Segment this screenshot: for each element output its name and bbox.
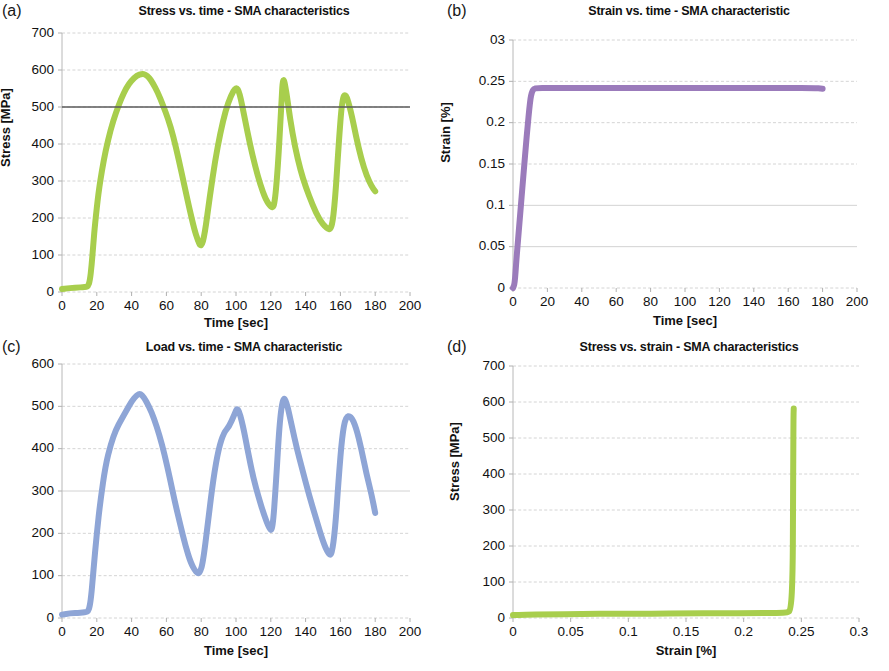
- x-tick-label: 60: [609, 294, 624, 309]
- panel-c: (c) Load vs. time - SMA characteristic 0…: [0, 336, 444, 671]
- y-tick-label: 0.05: [479, 238, 505, 253]
- y-tick-label: 400: [482, 466, 505, 481]
- x-tick-label: 200: [399, 624, 422, 639]
- x-tick-label: 80: [194, 298, 209, 313]
- x-tick-label: 120: [260, 624, 283, 639]
- x-tick-label: 80: [194, 624, 209, 639]
- x-tick-label: 0.2: [734, 624, 753, 639]
- y-tick-label: 600: [482, 394, 505, 409]
- data-curve-a: [62, 74, 375, 289]
- panel-a: (a) Stress vs. time - SMA characteristic…: [0, 0, 444, 335]
- panel-c-xlabel: Time [sec]: [62, 643, 410, 658]
- panel-b-svg: 00.050.10.150.20.25030204060801001201401…: [445, 0, 889, 335]
- x-tick-label: 0.1: [619, 624, 638, 639]
- x-tick-label: 160: [329, 624, 352, 639]
- y-tick-label: 100: [31, 247, 54, 262]
- x-tick-label: 100: [225, 298, 248, 313]
- figure-root: (a) Stress vs. time - SMA characteristic…: [0, 0, 889, 671]
- panel-d: (d) Stress vs. strain - SMA characterist…: [445, 336, 889, 671]
- x-tick-label: 60: [159, 624, 174, 639]
- x-tick-label: 120: [260, 298, 283, 313]
- panel-a-ylabel: Stress [MPa]: [0, 88, 13, 167]
- y-tick-label: 600: [31, 356, 54, 371]
- panel-a-plot: 0100200300400500600700020406080100120140…: [0, 0, 444, 335]
- panel-b-xlabel: Time [sec]: [513, 313, 857, 328]
- x-tick-label: 0.05: [558, 624, 584, 639]
- y-tick-label: 100: [482, 574, 505, 589]
- y-tick-label: 700: [31, 25, 54, 40]
- y-tick-label: 300: [482, 502, 505, 517]
- x-tick-label: 200: [399, 298, 422, 313]
- x-tick-label: 140: [294, 298, 317, 313]
- x-tick-label: 0: [509, 294, 517, 309]
- y-tick-label: 200: [482, 538, 505, 553]
- y-tick-label: 03: [490, 32, 505, 47]
- x-tick-label: 20: [89, 298, 104, 313]
- x-tick-label: 20: [540, 294, 555, 309]
- y-tick-label: 0: [497, 610, 505, 625]
- x-tick-label: 100: [674, 294, 697, 309]
- panel-d-svg: 010020030040050060070000.050.10.150.20.2…: [445, 336, 889, 671]
- panel-a-svg: 0100200300400500600700020406080100120140…: [0, 0, 444, 335]
- x-tick-label: 140: [743, 294, 766, 309]
- y-tick-label: 300: [31, 173, 54, 188]
- panel-d-ylabel: Stress [MPa]: [447, 422, 462, 501]
- y-tick-label: 500: [31, 99, 54, 114]
- y-tick-label: 500: [31, 398, 54, 413]
- y-tick-label: 0.2: [486, 114, 505, 129]
- x-tick-label: 0.25: [788, 624, 814, 639]
- y-tick-label: 0: [46, 284, 54, 299]
- x-tick-label: 100: [225, 624, 248, 639]
- y-tick-label: 0: [497, 280, 505, 295]
- x-tick-label: 160: [777, 294, 800, 309]
- x-tick-label: 140: [294, 624, 317, 639]
- y-tick-label: 0: [46, 610, 54, 625]
- x-tick-label: 40: [124, 624, 139, 639]
- y-tick-label: 200: [31, 210, 54, 225]
- y-tick-label: 0.15: [479, 156, 505, 171]
- y-tick-label: 600: [31, 62, 54, 77]
- panel-a-xlabel: Time [sec]: [62, 315, 410, 330]
- y-tick-label: 700: [482, 358, 505, 373]
- data-curve-c: [62, 394, 375, 615]
- panel-b: (b) Strain vs. time - SMA characteristic…: [445, 0, 889, 335]
- x-tick-label: 180: [364, 624, 387, 639]
- y-tick-label: 300: [31, 483, 54, 498]
- x-tick-label: 40: [124, 298, 139, 313]
- panel-d-xlabel: Strain [%]: [513, 643, 859, 658]
- y-tick-label: 100: [31, 567, 54, 582]
- x-tick-label: 60: [159, 298, 174, 313]
- y-tick-label: 400: [31, 136, 54, 151]
- data-curve-d: [513, 408, 794, 615]
- x-tick-label: 180: [811, 294, 834, 309]
- x-tick-label: 120: [708, 294, 731, 309]
- x-tick-label: 40: [574, 294, 589, 309]
- x-tick-label: 0.15: [673, 624, 699, 639]
- y-tick-label: 400: [31, 440, 54, 455]
- x-tick-label: 0.3: [850, 624, 869, 639]
- y-tick-label: 500: [482, 430, 505, 445]
- x-tick-label: 180: [364, 298, 387, 313]
- x-tick-label: 160: [329, 298, 352, 313]
- x-tick-label: 0: [58, 624, 66, 639]
- y-tick-label: 200: [31, 525, 54, 540]
- x-tick-label: 0: [58, 298, 66, 313]
- x-tick-label: 200: [846, 294, 869, 309]
- y-tick-label: 0.25: [479, 73, 505, 88]
- x-tick-label: 20: [89, 624, 104, 639]
- x-tick-label: 80: [643, 294, 658, 309]
- panel-b-ylabel: Strain [%]: [438, 102, 453, 163]
- panel-d-plot: 010020030040050060070000.050.10.150.20.2…: [445, 336, 889, 671]
- panel-c-svg: 0100200300400500600020406080100120140160…: [0, 336, 444, 671]
- panel-b-plot: 00.050.10.150.20.25030204060801001201401…: [445, 0, 889, 335]
- data-curve-b: [513, 88, 823, 288]
- x-tick-label: 0: [509, 624, 517, 639]
- y-tick-label: 0.1: [486, 197, 505, 212]
- panel-c-plot: 0100200300400500600020406080100120140160…: [0, 336, 444, 671]
